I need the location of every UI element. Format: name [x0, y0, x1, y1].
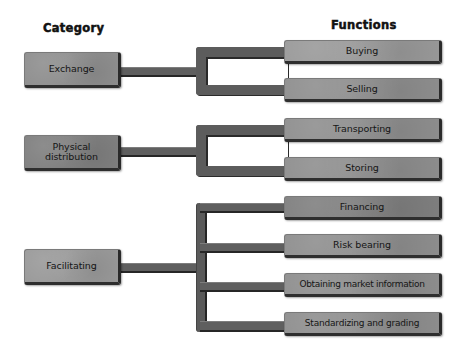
category-column-header: Category [43, 21, 104, 35]
category-box-exchange: Exchange [24, 52, 121, 88]
function-box-risk-bearing: Risk bearing [284, 234, 442, 258]
function-box-standardizing-and-grading: Standardizing and grading [284, 312, 442, 336]
connector-bracket-physical-distribution [196, 125, 288, 176]
connector-branch-market-information [200, 282, 288, 292]
function-label: Obtaining market information [299, 279, 424, 289]
function-label: Selling [346, 84, 377, 94]
function-box-buying: Buying [284, 40, 442, 64]
function-label: Transporting [333, 124, 391, 134]
function-box-transporting: Transporting [284, 118, 442, 142]
connector-spine-facilitating [196, 203, 207, 332]
category-label: Facilitating [46, 261, 96, 271]
function-label: Buying [346, 46, 378, 56]
category-box-physical-distribution: Physical distribution [24, 135, 121, 171]
function-box-obtaining-market-information: Obtaining market information [284, 273, 442, 297]
function-label: Risk bearing [333, 240, 391, 250]
function-box-selling: Selling [284, 78, 442, 102]
category-label-line-2: distribution [45, 152, 98, 162]
connector-stem-facilitating [119, 263, 199, 273]
connector-branch-standardizing [200, 321, 288, 332]
connector-stem-exchange [119, 67, 199, 77]
category-box-facilitating: Facilitating [24, 249, 121, 285]
function-label: Financing [340, 202, 384, 212]
category-label: Exchange [49, 64, 95, 74]
connector-stem-physical-distribution [119, 147, 199, 157]
function-label: Standardizing and grading [305, 318, 419, 328]
connector-branch-risk-bearing [200, 243, 288, 253]
connector-bracket-exchange [196, 47, 288, 95]
connector-branch-financing [200, 203, 288, 213]
functions-column-header: Functions [331, 18, 397, 32]
function-box-financing: Financing [284, 196, 442, 220]
function-label: Storing [345, 163, 378, 173]
function-box-storing: Storing [284, 157, 442, 181]
